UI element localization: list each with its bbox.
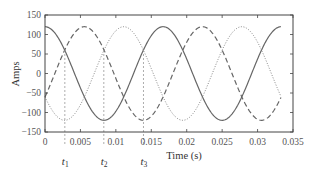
plot-frame [45, 15, 293, 132]
time-markers: t1t2t3 [62, 50, 148, 169]
y-axis-label: Amps [10, 61, 21, 86]
x-tick-label: 0.01 [108, 137, 125, 147]
x-tick-label: 0.015 [141, 137, 163, 147]
y-tick-label: 0 [36, 69, 41, 79]
series-line-solid [45, 27, 281, 121]
time-marker-label: t3 [140, 155, 147, 169]
three-phase-current-chart: t1t2t3 00.0050.010.0150.020.0250.030.035… [0, 0, 317, 171]
y-tick-label: 50 [32, 49, 42, 59]
x-tick-label: 0.005 [70, 137, 92, 147]
series-line-dashed [45, 27, 281, 121]
time-marker-label: t1 [62, 155, 69, 169]
x-axis-ticks: 00.0050.010.0150.020.0250.030.035 [43, 15, 304, 147]
y-tick-label: 100 [27, 30, 42, 40]
x-tick-label: 0.03 [249, 137, 266, 147]
series-lines [45, 27, 281, 121]
series-line-dotted [45, 27, 281, 121]
time-marker-label: t2 [101, 155, 108, 169]
y-tick-label: −150 [21, 127, 41, 137]
y-tick-label: −100 [21, 108, 41, 118]
x-tick-label: 0.025 [211, 137, 233, 147]
y-tick-label: −50 [26, 88, 41, 98]
y-tick-label: 150 [27, 10, 42, 20]
x-tick-label: 0.035 [282, 137, 304, 147]
x-axis-label: Time (s) [166, 150, 202, 162]
x-tick-label: 0.02 [178, 137, 195, 147]
x-tick-label: 0 [43, 137, 48, 147]
